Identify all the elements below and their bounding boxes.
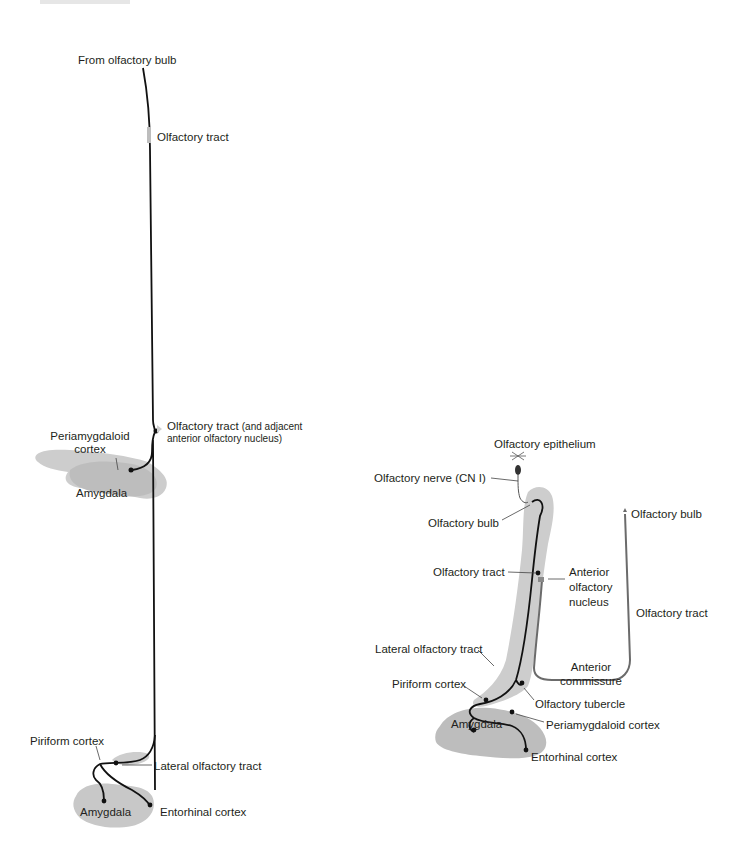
label-anterior-olfactory-nucleus-3: nucleus [569,595,609,609]
label-olfactory-tract-aon-main: Olfactory tract [167,420,239,432]
label-piriform-cortex-right: Piriform cortex [392,677,466,691]
label-anterior-olfactory-nucleus-2: olfactory [569,580,612,594]
label-olfactory-epithelium: Olfactory epithelium [494,437,596,451]
label-from-olfactory-bulb: From olfactory bulb [78,53,176,67]
label-amygdala-upper: Amygdala [76,486,127,500]
label-entorhinal-cortex-right: Entorhinal cortex [531,750,617,764]
label-anterior-commissure-1: Anterior [556,660,626,674]
label-olfactory-bulb-left: Olfactory bulb [428,516,499,530]
label-olfactory-tract-left: Olfactory tract [157,130,229,144]
label-olfactory-tract-right-outer: Olfactory tract [636,606,708,620]
label-olfactory-nerve: Olfactory nerve (CN I) [374,471,486,485]
label-olfactory-bulb-right: Olfactory bulb [631,507,702,521]
label-periamygdaloid-line1: Periamygdaloid [40,429,140,443]
label-olfactory-tubercle: Olfactory tubercle [535,697,625,711]
label-periamygdaloid-line2: cortex [40,442,140,456]
label-piriform-cortex-left: Piriform cortex [30,734,104,748]
label-anterior-olfactory-nucleus-1: Anterior [569,565,609,579]
label-olfactory-tract-right-inner: Olfactory tract [433,565,505,579]
label-entorhinal-cortex-left: Entorhinal cortex [160,805,246,819]
label-olfactory-tract-aon-sub1: (and adjacent [242,421,303,432]
label-lateral-olfactory-tract-right: Lateral olfactory tract [375,642,482,656]
label-lateral-olfactory-tract-left: Lateral olfactory tract [154,759,261,773]
label-amygdala-lower: Amygdala [80,805,131,819]
label-anterior-olfactory-nucleus-left: anterior olfactory nucleus) [167,432,282,446]
amygdala-region-right [435,708,546,759]
olfactory-receptor-neuron [510,452,528,503]
label-amygdala-right: Amygdala [451,717,502,731]
label-anterior-commissure-2: commissure [556,674,626,688]
label-periamygdaloid-cortex-right: Periamygdaloid cortex [546,718,660,732]
